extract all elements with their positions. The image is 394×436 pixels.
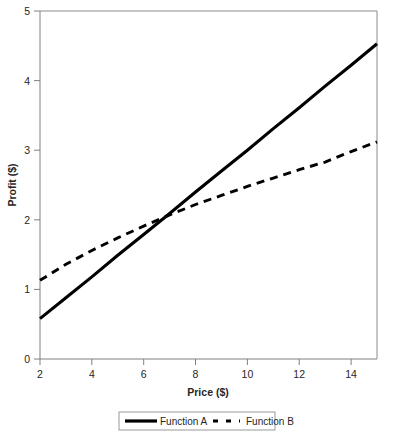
x-tick-label-2: 2 xyxy=(37,368,43,380)
legend-label-function-a: Function A xyxy=(160,416,208,427)
series-line-function-a xyxy=(40,44,377,319)
series-group xyxy=(40,44,377,319)
y-axis-ticks xyxy=(34,11,40,359)
x-tick-label-14: 14 xyxy=(345,368,357,380)
y-tick-label-2: 2 xyxy=(24,214,30,226)
chart-legend: Function A Function B xyxy=(119,412,294,430)
plot-frame xyxy=(40,11,377,359)
y-tick-label-3: 3 xyxy=(24,144,30,156)
legend-label-function-b: Function B xyxy=(246,416,294,427)
y-tick-label-1: 1 xyxy=(24,283,30,295)
x-tick-label-10: 10 xyxy=(242,368,254,380)
x-tick-label-4: 4 xyxy=(89,368,95,380)
x-axis-ticks xyxy=(40,359,351,365)
x-tick-label-12: 12 xyxy=(293,368,305,380)
x-tick-label-6: 6 xyxy=(141,368,147,380)
x-tick-label-8: 8 xyxy=(193,368,199,380)
chart-figure: 5 4 3 2 1 0 2 4 6 8 10 12 14 Pri xyxy=(0,0,394,436)
y-tick-label-5: 5 xyxy=(24,5,30,17)
x-axis-title: Price ($) xyxy=(187,386,228,398)
y-tick-label-0: 0 xyxy=(24,353,30,365)
chart-svg: 5 4 3 2 1 0 2 4 6 8 10 12 14 Pri xyxy=(0,0,394,436)
x-axis-tick-labels: 2 4 6 8 10 12 14 xyxy=(37,368,357,380)
series-line-function-b xyxy=(40,142,377,281)
y-tick-label-4: 4 xyxy=(24,75,30,87)
y-axis-title: Profit ($) xyxy=(6,163,18,206)
y-axis-tick-labels: 5 4 3 2 1 0 xyxy=(24,5,30,365)
